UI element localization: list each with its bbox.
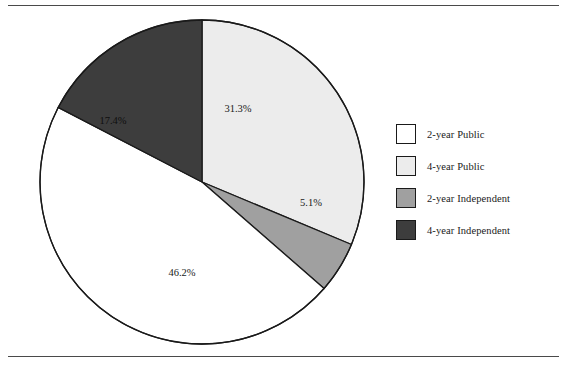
legend-swatch-icon <box>396 156 416 176</box>
legend-swatch-icon <box>396 220 416 240</box>
legend-item-label: 4-year Public <box>427 161 485 172</box>
legend-item-label: 2-year Public <box>427 129 485 140</box>
legend-item[interactable]: 4-year Independent <box>396 214 561 246</box>
legend-item-label: 4-year Independent <box>427 225 510 236</box>
legend-item[interactable]: 2-year Independent <box>396 182 561 214</box>
pie-slice-value-label: 5.1% <box>300 197 322 208</box>
legend-swatch-icon <box>396 188 416 208</box>
pie-slice-value-label: 31.3% <box>224 103 251 114</box>
figure-panel: 31.3%5.1%46.2%17.4% 2-year Public4-year … <box>0 0 567 366</box>
legend-item[interactable]: 4-year Public <box>396 150 561 182</box>
pie-slice-value-label: 46.2% <box>168 267 195 278</box>
legend-item-label: 2-year Independent <box>427 193 510 204</box>
legend-item[interactable]: 2-year Public <box>396 118 561 150</box>
pie-slice-value-label: 17.4% <box>99 115 126 126</box>
legend-swatch-icon <box>396 124 416 144</box>
pie-slice-group <box>40 20 364 344</box>
bottom-rule <box>8 356 559 357</box>
chart-legend: 2-year Public4-year Public2-year Indepen… <box>396 118 561 246</box>
